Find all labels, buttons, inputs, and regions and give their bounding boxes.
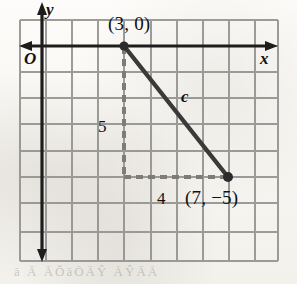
point-label-3-0: (3, 0): [108, 14, 150, 33]
coordinate-plane-svg: [0, 0, 297, 284]
segment-label-c: c: [181, 88, 189, 105]
grid-lines: [20, 20, 278, 261]
origin-label: O: [24, 50, 36, 67]
axes: [25, 7, 270, 255]
y-axis-label: y: [46, 1, 54, 18]
point-label-7-neg5: (7, −5): [185, 188, 238, 207]
axis-arrowheads: [19, 2, 278, 262]
vertical-leg-length-label: 5: [98, 118, 107, 135]
figure-canvas: y O x (3, 0) (7, −5) c 5 4 ā Ā ĀŎāŌĀŶ ĀŶ…: [0, 0, 297, 284]
point-7-neg5: [223, 172, 233, 182]
point-3-0: [119, 41, 128, 50]
x-axis-label: x: [260, 50, 269, 67]
horizontal-leg-length-label: 4: [157, 190, 166, 207]
hypotenuse-segment: [124, 46, 228, 177]
